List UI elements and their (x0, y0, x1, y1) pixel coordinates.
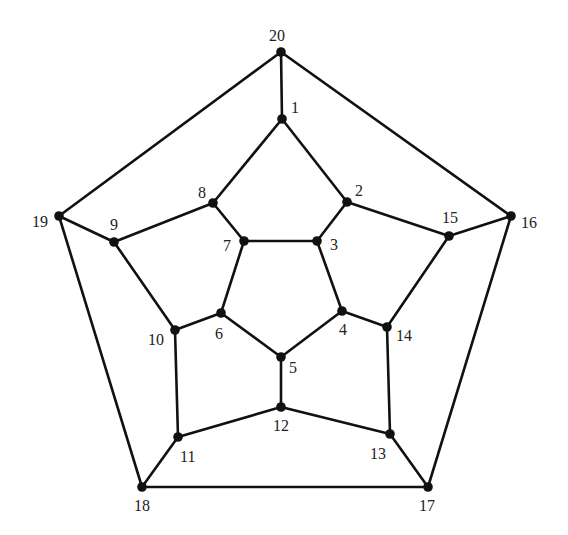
vertex-label-10: 10 (148, 331, 164, 348)
vertex-5 (276, 352, 286, 362)
edge-8-9 (114, 203, 213, 242)
edge-12-13 (281, 407, 390, 434)
edge-1-2 (282, 119, 347, 202)
edge-9-10 (114, 242, 175, 330)
edge-5-6 (221, 313, 281, 357)
vertex-10 (170, 325, 180, 335)
vertex-label-16: 16 (521, 214, 537, 231)
vertex-label-13: 13 (370, 445, 386, 462)
edge-13-14 (387, 327, 390, 434)
vertex-19 (54, 211, 64, 221)
vertex-label-20: 20 (269, 27, 285, 44)
graph-node-labels: 1234567891011121314151617181920 (32, 27, 537, 514)
vertex-3 (312, 236, 322, 246)
vertex-15 (444, 231, 454, 241)
vertex-17 (423, 482, 433, 492)
edge-15-16 (449, 216, 511, 236)
edge-7-8 (213, 203, 244, 241)
vertex-2 (342, 197, 352, 207)
vertex-label-6: 6 (215, 325, 223, 342)
edge-14-15 (387, 236, 449, 327)
vertex-label-4: 4 (339, 321, 347, 338)
vertex-16 (506, 211, 516, 221)
dodecahedral-graph: 1234567891011121314151617181920 (0, 0, 568, 535)
edge-11-12 (178, 407, 281, 437)
vertex-label-8: 8 (198, 184, 206, 201)
edge-4-14 (342, 311, 387, 327)
edge-20-19 (59, 52, 281, 216)
edge-20-1 (281, 52, 282, 119)
vertex-label-15: 15 (442, 209, 458, 226)
edge-4-5 (281, 311, 342, 357)
vertex-13 (385, 429, 395, 439)
vertex-label-18: 18 (134, 497, 150, 514)
vertex-label-14: 14 (396, 327, 412, 344)
vertex-7 (239, 236, 249, 246)
vertex-4 (337, 306, 347, 316)
vertex-label-3: 3 (330, 236, 338, 253)
edge-11-18 (142, 437, 178, 487)
vertex-label-5: 5 (289, 359, 297, 376)
vertex-6 (216, 308, 226, 318)
edge-1-8 (213, 119, 282, 203)
edge-10-11 (175, 330, 178, 437)
vertex-label-11: 11 (180, 448, 195, 465)
vertex-label-12: 12 (273, 417, 289, 434)
vertex-label-19: 19 (32, 213, 48, 230)
vertex-11 (173, 432, 183, 442)
edge-18-19 (59, 216, 142, 487)
vertex-1 (277, 114, 287, 124)
vertex-label-7: 7 (223, 237, 231, 254)
edge-16-17 (428, 216, 511, 487)
vertex-label-2: 2 (355, 182, 363, 199)
vertex-18 (137, 482, 147, 492)
vertex-label-1: 1 (291, 99, 299, 116)
vertex-label-17: 17 (419, 497, 435, 514)
vertex-12 (276, 402, 286, 412)
vertex-20 (276, 47, 286, 57)
edge-13-17 (390, 434, 428, 487)
vertex-14 (382, 322, 392, 332)
vertex-9 (109, 237, 119, 247)
vertex-8 (208, 198, 218, 208)
edge-20-16 (281, 52, 511, 216)
vertex-label-9: 9 (110, 216, 118, 233)
edge-2-15 (347, 202, 449, 236)
edge-9-19 (59, 216, 114, 242)
